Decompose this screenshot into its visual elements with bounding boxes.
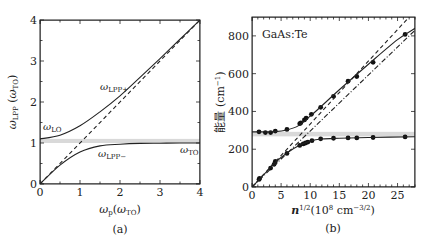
panel-b-annotation: GaAs:Te xyxy=(262,28,308,41)
y-tick-label: 0 xyxy=(30,178,37,191)
series-line xyxy=(252,28,415,132)
x-tick-label: 0 xyxy=(37,186,44,199)
x-tick-label: 1 xyxy=(77,186,84,199)
x-tick-label: 3 xyxy=(157,186,164,199)
label-omega-lpp-minus: ωLPP− xyxy=(98,148,126,161)
shaded-band xyxy=(40,139,200,143)
y-tick-label: 3 xyxy=(30,55,37,68)
figure: 0123401234 05101520250200400600800 ωp(ωT… xyxy=(0,0,427,243)
series-line xyxy=(40,143,200,184)
panel-a-ylabel: ωLPP (ωTO) xyxy=(6,75,20,130)
svg-text:ωLPP (ωTO): ωLPP (ωTO) xyxy=(6,75,20,130)
y-tick-label: 0 xyxy=(242,181,249,194)
series-line xyxy=(252,137,415,187)
series-line xyxy=(252,30,415,187)
label-omega-lpp-plus: ωLPP+ xyxy=(100,81,128,94)
y-tick-label: 4 xyxy=(30,14,37,27)
x-tick-label: 2 xyxy=(117,186,124,199)
panel-a-xlabel: ωp(ωTO) xyxy=(99,203,140,217)
x-tick-label: 4 xyxy=(197,186,204,199)
x-tick-label: 0 xyxy=(249,189,256,202)
label-omega-lo: ωLO xyxy=(43,121,62,134)
series-line xyxy=(40,20,200,139)
x-tick-label: 10 xyxy=(303,189,317,202)
y-tick-label: 400 xyxy=(228,105,249,118)
panel-a-chart: 0123401234 xyxy=(30,14,204,199)
panel-a-caption: (a) xyxy=(112,223,127,236)
x-tick-label: 25 xyxy=(391,189,405,202)
x-tick-label: 5 xyxy=(278,189,285,202)
data-point xyxy=(268,130,273,135)
data-point xyxy=(263,130,268,135)
y-tick-label: 200 xyxy=(228,143,249,156)
panel-b-caption: (b) xyxy=(325,222,341,235)
y-tick-label: 2 xyxy=(30,96,37,109)
y-tick-label: 1 xyxy=(30,137,37,150)
svg-text:能量 (cm−1): 能量 (cm−1) xyxy=(213,71,227,132)
panel-b-xlabel: n1/2(108 cm−3/2) xyxy=(291,204,375,217)
y-tick-label: 600 xyxy=(228,68,249,81)
panel-b-ylabel: 能量 (cm−1) xyxy=(213,71,227,132)
label-omega-to: ωTO xyxy=(180,144,199,157)
x-tick-label: 15 xyxy=(332,189,346,202)
x-tick-label: 20 xyxy=(361,189,375,202)
panel-b-chart: 05101520250200400600800 xyxy=(228,17,415,202)
y-tick-label: 800 xyxy=(228,30,249,43)
